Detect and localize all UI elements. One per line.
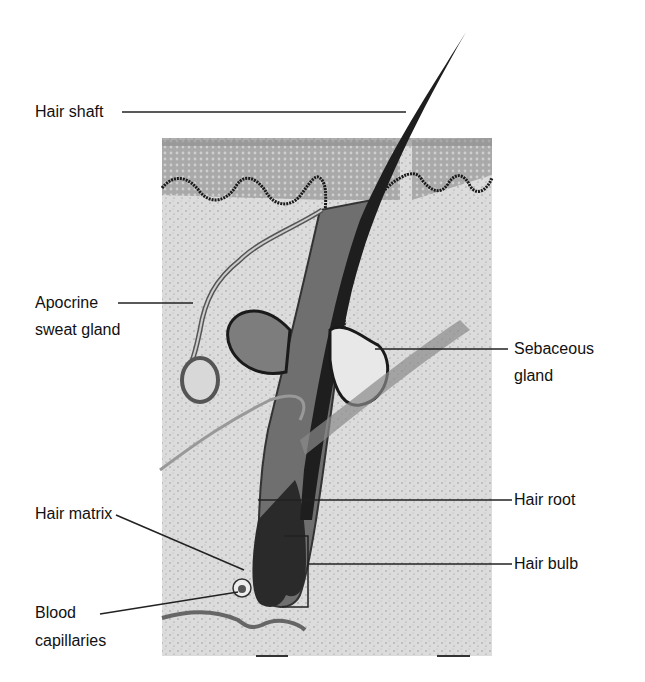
label-hair-shaft: Hair shaft	[35, 101, 103, 123]
stratum-corneum	[162, 138, 492, 146]
label-blood-capillaries-line1: Blood	[35, 602, 76, 624]
label-hair-bulb: Hair bulb	[514, 553, 578, 575]
label-sebaceous-gland-line2: gland	[514, 365, 553, 387]
label-hair-matrix: Hair matrix	[35, 503, 112, 525]
label-apocrine-sweat-gland-line2: sweat gland	[35, 319, 120, 341]
label-blood-capillaries-line2: capillaries	[35, 630, 106, 652]
papilla-core	[238, 585, 246, 593]
label-hair-root: Hair root	[514, 489, 575, 511]
label-apocrine-sweat-gland-line1: Apocrine	[35, 292, 98, 314]
apocrine-coil	[182, 358, 218, 402]
label-sebaceous-gland-line1: Sebaceous	[514, 338, 594, 360]
